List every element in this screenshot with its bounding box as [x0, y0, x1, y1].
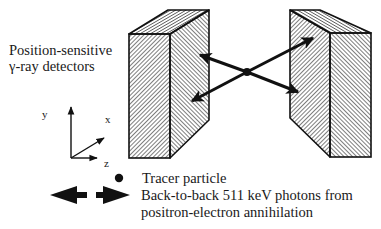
pet-diagram: Position-sensitive γ-ray detectors y x z… [0, 0, 381, 229]
detector-label-line2: γ-ray detectors [9, 58, 95, 75]
x-axis-label: x [105, 113, 111, 125]
detector-label-line1: Position-sensitive [9, 42, 112, 59]
tracer-particle [243, 68, 251, 76]
right-detector-front [330, 33, 371, 157]
z-axis-label: z [104, 157, 109, 169]
legend-photons-label-line1: Back-to-back 511 keV photons from [141, 187, 353, 204]
legend-tracer-icon [115, 174, 123, 182]
right-detector-side [290, 10, 330, 157]
legend-tracer-label: Tracer particle [142, 170, 226, 187]
left-detector-front [129, 34, 170, 158]
left-detector-side [170, 10, 209, 158]
legend-photons-label-line2: positron-electron annihilation [141, 204, 313, 221]
legend-photon-arrows-icon [50, 186, 130, 204]
legend-symbols [50, 174, 130, 204]
x-axis-arrow [71, 138, 104, 158]
y-axis-label: y [42, 108, 48, 120]
right-detector [290, 10, 371, 157]
coordinate-axes [71, 107, 104, 158]
left-detector [129, 10, 209, 158]
